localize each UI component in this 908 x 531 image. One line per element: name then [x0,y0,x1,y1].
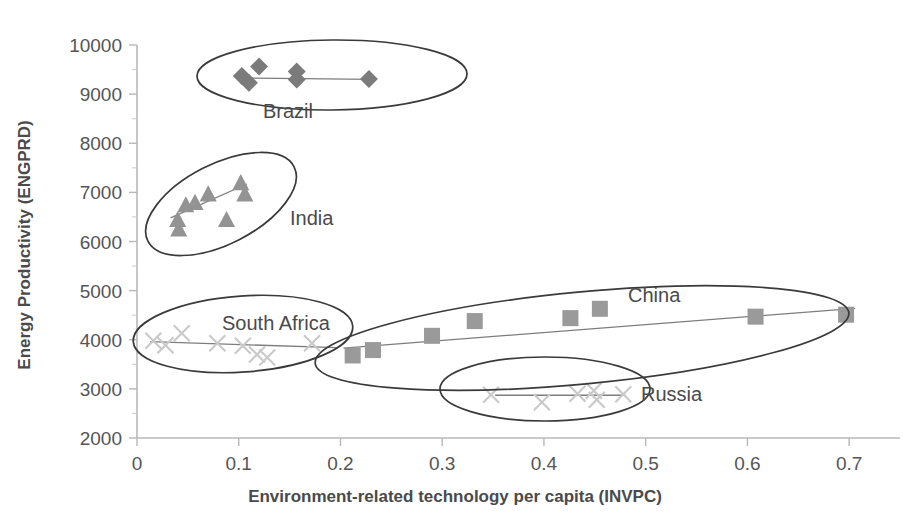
data-point-x [570,386,586,402]
y-tick-label: 7000 [80,182,122,203]
data-point-x [304,335,320,351]
data-point-diamond [360,70,378,88]
x-axis: 00.10.20.30.40.50.60.7 [132,438,900,474]
data-point-square [562,310,578,326]
data-point-triangle [232,174,249,190]
y-tick-label: 4000 [80,330,122,351]
label-china: China [628,284,681,306]
y-axis-ticks [129,45,137,438]
x-tick-label: 0.3 [429,453,455,474]
series-india [169,174,253,236]
cluster-ellipses [130,39,853,421]
x-tick-label: 0.6 [734,453,760,474]
data-point-x [534,394,550,410]
y-tick-label: 3000 [80,379,122,400]
data-point-x [615,386,631,402]
x-tick-label: 0.4 [531,453,558,474]
plot-svg: 2000300040005000600070008000900010000 00… [0,0,908,531]
y-axis-title: Energy Productivity (ENGPRD) [15,120,34,369]
data-point-square [748,309,764,325]
data-point-x [174,325,190,341]
y-tick-label: 5000 [80,281,122,302]
y-tick-label: 2000 [80,428,122,449]
data-point-square [345,347,361,363]
label-india: India [290,207,334,229]
label-south-africa: South Africa [222,312,331,334]
data-point-square [365,342,381,358]
y-tick-label: 9000 [80,84,122,105]
cluster-labels: Brazil India South Africa China Russia [222,100,703,405]
label-russia: Russia [641,383,703,405]
ellipse-south-africa [131,288,356,379]
x-axis-tick-labels: 00.10.20.30.40.50.60.7 [132,453,863,474]
ellipse-china [311,267,853,409]
x-axis-title: Environment-related technology per capit… [248,487,662,506]
data-point-square [467,313,483,329]
data-point-triangle [218,211,235,227]
y-tick-label: 10000 [69,35,122,56]
trendline-brazil [239,78,373,79]
data-point-square [424,328,440,344]
data-point-triangle [186,194,203,210]
scatter-chart: 2000300040005000600070008000900010000 00… [0,0,908,531]
data-point-square [592,301,608,317]
data-point-x [259,349,275,365]
x-tick-label: 0 [132,453,143,474]
data-series-layer [145,58,855,411]
x-tick-label: 0.2 [327,453,353,474]
y-axis: 2000300040005000600070008000900010000 [69,35,137,449]
data-point-x [235,338,251,354]
ellipse-india [130,131,312,277]
series-china [344,301,856,364]
data-point-x [249,346,265,362]
data-point-diamond [250,58,268,76]
label-brazil: Brazil [263,100,313,122]
x-tick-label: 0.1 [226,453,252,474]
x-axis-ticks [137,438,849,446]
y-tick-label: 6000 [80,232,122,253]
data-point-triangle [200,185,217,201]
x-tick-label: 0.7 [836,453,862,474]
series-brazil [233,58,378,92]
y-tick-label: 8000 [80,133,122,154]
data-point-x [157,337,173,353]
data-point-x [145,333,161,349]
y-axis-tick-labels: 2000300040005000600070008000900010000 [69,35,122,449]
x-tick-label: 0.5 [632,453,658,474]
